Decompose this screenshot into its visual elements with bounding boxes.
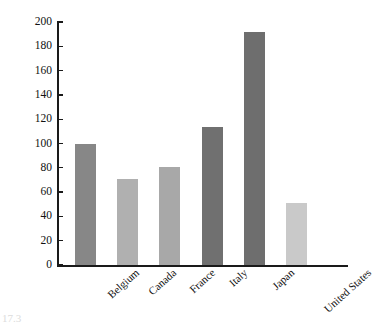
y-axis-tick-label-wrap: 80 [0,162,52,174]
y-axis-tick-label: 180 [0,40,52,52]
x-axis-category-label: Italy [227,267,249,289]
y-axis-tick-label: 40 [0,210,52,222]
y-axis-tick-label: 140 [0,89,52,101]
x-axis-category-label: France [188,267,218,295]
figure-caption-artifact: 17.3 [2,312,21,324]
x-axis-category-labels: BelgiumCanadaFranceItalyJapanUnited Stat… [57,267,348,329]
y-axis-tick-label-wrap: 20 [0,235,52,247]
bar [202,127,223,266]
x-axis-category-label: Canada [146,267,178,297]
y-axis-tick-label: 60 [0,186,52,198]
x-axis-category-label: United States [322,267,373,315]
y-axis-tick-label-wrap: 100 [0,138,52,150]
bar [117,179,138,265]
x-axis-category-label: Belgium [105,267,141,301]
bar [159,167,180,265]
y-axis-tick-label-wrap: 140 [0,89,52,101]
y-axis-tick-label-wrap: 0 [0,259,52,271]
bar [244,32,265,265]
bar [286,203,307,265]
y-axis-tick-label: 20 [0,235,52,247]
y-axis-tick-label-wrap: 160 [0,65,52,77]
y-axis-tick-label-wrap: 200 [0,16,52,28]
y-axis-tick-label-wrap: 120 [0,113,52,125]
y-axis-tick-label-wrap: 40 [0,210,52,222]
bar [75,144,96,266]
y-axis-tick-label: 0 [0,259,52,271]
x-axis-category-label: Japan [271,267,297,292]
y-axis-tick-label-wrap: 60 [0,186,52,198]
y-axis-tick-label: 200 [0,16,52,28]
y-axis-tick-label-wrap: 180 [0,40,52,52]
y-axis-tick-label: 160 [0,65,52,77]
y-axis-tick-label: 100 [0,138,52,150]
y-axis-tick-label: 120 [0,113,52,125]
y-axis-tick-label: 80 [0,162,52,174]
bars-layer [57,22,348,265]
